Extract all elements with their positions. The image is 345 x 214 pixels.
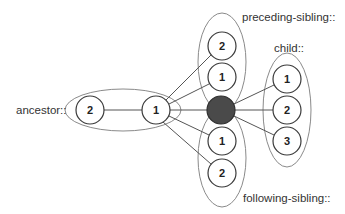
- xpath-axes-diagram: 2 1 2 1 1 2 1 2 3 ancestor:: preceding-s…: [0, 0, 345, 214]
- node-ancestor-2: 2: [76, 96, 104, 124]
- node-following-sibling-2: 2: [208, 159, 236, 187]
- node-following-sibling-1: 1: [208, 127, 236, 155]
- node-child-1: 1: [273, 65, 301, 93]
- node-label: 2: [219, 40, 225, 52]
- context-node-circle: [207, 96, 235, 124]
- node-label: 1: [219, 71, 225, 83]
- node-context-self: [207, 96, 235, 124]
- node-preceding-sibling-1: 1: [208, 63, 236, 91]
- node-label: 1: [284, 73, 290, 85]
- node-ancestor-1: 1: [142, 96, 170, 124]
- node-label: 2: [284, 104, 290, 116]
- preceding-sibling-axis-label: preceding-sibling::: [242, 11, 335, 23]
- edge-ancestor-1-to-preceding-sibling-2: [166, 55, 211, 100]
- node-preceding-sibling-2: 2: [208, 32, 236, 60]
- node-label: 2: [219, 167, 225, 179]
- ancestor-axis-label: ancestor::: [16, 104, 67, 116]
- node-label: 1: [153, 104, 159, 116]
- following-sibling-axis-label: following-sibling::: [243, 192, 331, 204]
- child-axis-label: child::: [274, 42, 304, 54]
- node-child-2: 2: [273, 96, 301, 124]
- edge-ancestor-1-to-following-sibling-2: [163, 122, 211, 164]
- node-label: 3: [284, 135, 290, 147]
- node-child-3: 3: [273, 127, 301, 155]
- edges: [104, 55, 274, 164]
- edge-ancestor-1-to-preceding-sibling-1: [169, 84, 209, 104]
- node-label: 2: [87, 104, 93, 116]
- node-label: 1: [219, 135, 225, 147]
